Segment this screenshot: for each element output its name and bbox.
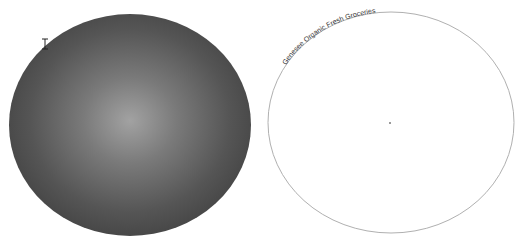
center-marker [389,122,391,124]
outline-ellipse[interactable] [268,12,514,233]
text-cursor-icon [41,36,49,48]
design-canvas[interactable]: Genesee Organic Fresh Groceries [0,0,519,243]
